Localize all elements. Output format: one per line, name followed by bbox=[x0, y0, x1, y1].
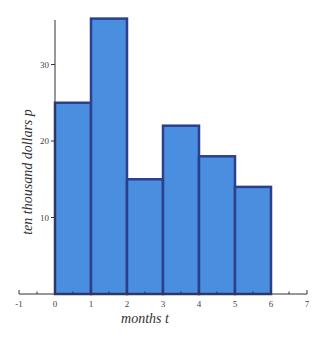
y-tick-label: 10 bbox=[40, 213, 50, 223]
histogram-bar bbox=[163, 126, 199, 294]
x-axis-label: months t bbox=[121, 311, 170, 326]
histogram-bar bbox=[127, 179, 163, 294]
x-tick-label: 2 bbox=[125, 299, 130, 309]
x-tick-label: -1 bbox=[15, 299, 23, 309]
histogram-bar bbox=[199, 156, 235, 294]
histogram-bar bbox=[55, 103, 91, 294]
x-tick-label: 6 bbox=[269, 299, 274, 309]
x-tick-label: 5 bbox=[233, 299, 238, 309]
histogram-bar bbox=[235, 187, 271, 294]
y-tick-label: 20 bbox=[40, 136, 50, 146]
x-tick-label: 1 bbox=[89, 299, 94, 309]
x-tick-label: 4 bbox=[197, 299, 202, 309]
histogram-chart: -101234567102030 months t ten thousand d… bbox=[0, 0, 323, 338]
y-axis-label: ten thousand dollars p bbox=[20, 109, 35, 235]
y-tick-label: 30 bbox=[40, 60, 50, 70]
x-tick-label: 0 bbox=[53, 299, 58, 309]
x-tick-label: 3 bbox=[161, 299, 166, 309]
x-tick-label: 7 bbox=[305, 299, 310, 309]
histogram-bar bbox=[91, 19, 127, 294]
bars bbox=[55, 19, 271, 294]
